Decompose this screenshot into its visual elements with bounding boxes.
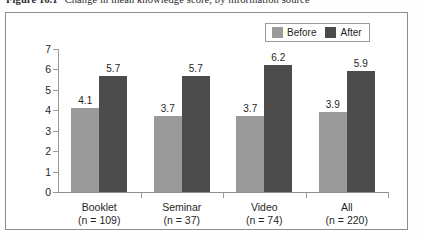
bar-before-seminar[interactable]: 3.7 <box>154 116 182 192</box>
bar-group-video: 3.76.2 <box>223 49 306 192</box>
y-axis-tick-label: 1 <box>45 166 51 178</box>
category-divider <box>223 192 224 198</box>
figure-caption-number: Figure 16.1 <box>6 0 58 5</box>
chart-legend: BeforeAfter <box>265 23 370 42</box>
bar-before-video[interactable]: 3.7 <box>236 116 264 192</box>
category-label-booklet: Booklet(n = 109) <box>58 201 141 227</box>
category-divider <box>141 192 142 198</box>
legend-label: Before <box>287 27 316 38</box>
figure-caption: Figure 16.1Change in mean knowledge scor… <box>6 0 416 8</box>
category-divider <box>388 192 389 198</box>
bar-before-all[interactable]: 3.9 <box>319 112 347 192</box>
bar-before-booklet[interactable]: 4.1 <box>71 108 99 192</box>
bar-after-seminar[interactable]: 5.7 <box>182 76 210 192</box>
y-axis-tick-label: 4 <box>45 104 51 116</box>
category-label-all: All(n = 220) <box>306 201 389 227</box>
y-axis-tick <box>53 192 58 193</box>
bar-value-label: 3.9 <box>326 99 340 110</box>
bar-value-label: 5.7 <box>106 63 120 74</box>
y-axis-tick-label: 3 <box>45 125 51 137</box>
chart-frame: BeforeAfter 01234567 4.15.73.75.73.76.23… <box>5 12 408 230</box>
category-count: (n = 74) <box>223 214 306 227</box>
category-count: (n = 220) <box>306 214 389 227</box>
legend-label: After <box>340 27 361 38</box>
category-divider <box>306 192 307 198</box>
bar-value-label: 5.9 <box>354 58 368 69</box>
figure-caption-text: Change in mean knowledge score, by infor… <box>65 0 310 5</box>
bar-after-all[interactable]: 5.9 <box>347 71 375 192</box>
bar-after-video[interactable]: 6.2 <box>264 65 292 192</box>
bar-group-seminar: 3.75.7 <box>141 49 224 192</box>
category-label-seminar: Seminar(n = 37) <box>141 201 224 227</box>
plot-area: 01234567 4.15.73.75.73.76.23.95.9 Bookle… <box>58 49 388 192</box>
y-axis-tick-label: 2 <box>45 145 51 157</box>
y-axis-tick-label: 5 <box>45 84 51 96</box>
bar-value-label: 3.7 <box>243 103 257 114</box>
category-name: Video <box>251 201 278 213</box>
legend-entry-after[interactable]: After <box>325 27 361 38</box>
category-count: (n = 109) <box>58 214 141 227</box>
bar-value-label: 3.7 <box>161 103 175 114</box>
legend-swatch-after-icon <box>325 27 336 38</box>
category-name: Seminar <box>162 201 201 213</box>
legend-swatch-before-icon <box>272 27 283 38</box>
bar-value-label: 6.2 <box>271 52 285 63</box>
category-count: (n = 37) <box>141 214 224 227</box>
y-axis-tick-label: 7 <box>45 43 51 55</box>
figure-root: Figure 16.1Change in mean knowledge scor… <box>0 0 421 238</box>
bar-group-booklet: 4.15.7 <box>58 49 141 192</box>
bar-value-label: 5.7 <box>189 63 203 74</box>
category-name: Booklet <box>82 201 117 213</box>
y-axis-tick-label: 0 <box>45 186 51 198</box>
legend-entry-before[interactable]: Before <box>272 27 316 38</box>
bar-group-all: 3.95.9 <box>306 49 389 192</box>
category-label-video: Video(n = 74) <box>223 201 306 227</box>
bar-value-label: 4.1 <box>78 95 92 106</box>
category-name: All <box>341 201 353 213</box>
y-axis-tick-label: 6 <box>45 63 51 75</box>
bar-after-booklet[interactable]: 5.7 <box>99 76 127 192</box>
